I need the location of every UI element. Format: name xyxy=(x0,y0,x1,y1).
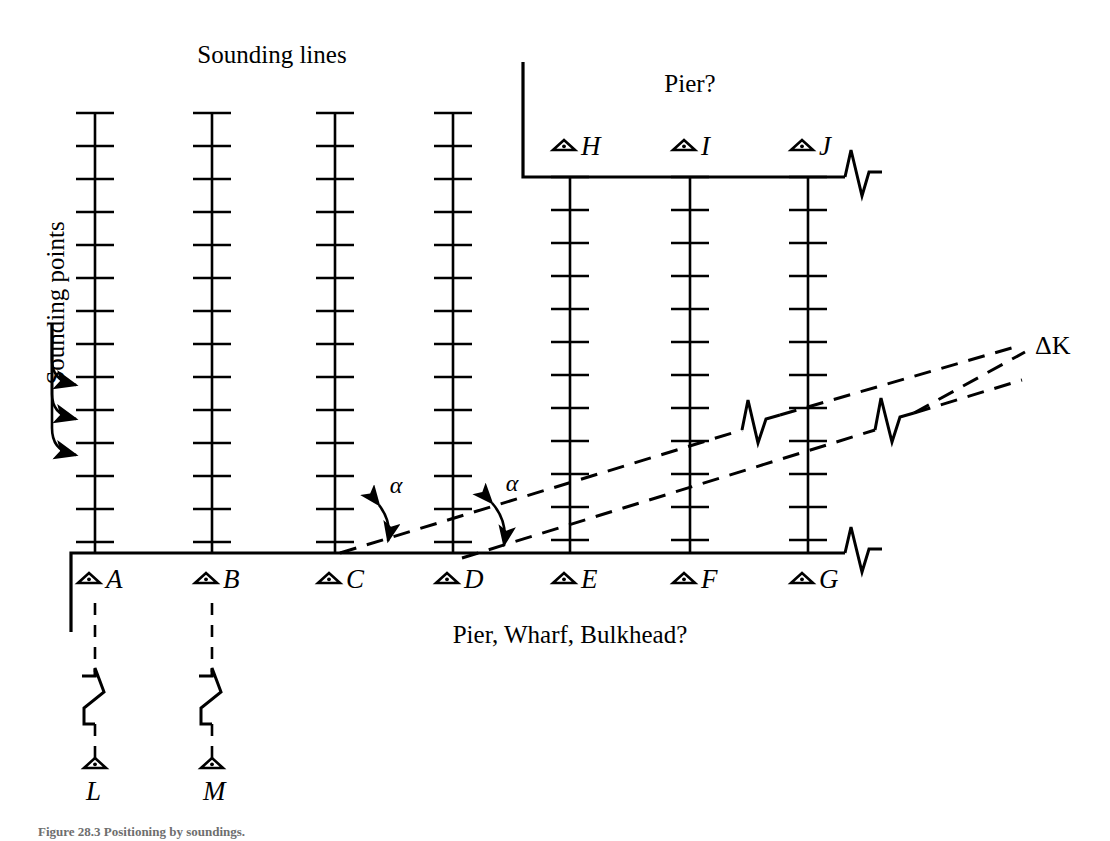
station-triangle-f xyxy=(673,573,695,583)
triangle-dot-icon xyxy=(562,144,566,148)
sounding-lines-title: Sounding lines xyxy=(197,41,346,68)
station-label-i: I xyxy=(700,131,712,161)
station-label-b: B xyxy=(223,564,240,594)
station-triangle-b xyxy=(195,573,217,583)
triangle-dot-icon xyxy=(87,577,91,581)
drop-line-b-break-symbol xyxy=(199,668,221,724)
sight-line-d-break-symbol xyxy=(875,398,914,442)
station-triangle-j xyxy=(791,140,813,150)
angle-alpha-arc-d xyxy=(492,503,505,545)
station-label-l: L xyxy=(85,776,101,806)
station-label-e: E xyxy=(580,564,598,594)
angle-alpha-group-d: α xyxy=(492,470,519,545)
station-label-k: ΔK xyxy=(1035,331,1071,360)
station-label-m: M xyxy=(202,776,227,806)
sounding-lines-group xyxy=(76,113,827,553)
station-label-f: F xyxy=(700,564,718,594)
angle-alpha-group-c: α xyxy=(379,472,403,541)
triangle-dot-icon xyxy=(204,577,208,581)
station-label-a: A xyxy=(104,564,123,594)
station-marker-k: ΔK xyxy=(1035,331,1071,360)
station-label-h: H xyxy=(580,131,602,161)
station-triangle-d xyxy=(436,573,458,583)
sounding-line-c xyxy=(316,113,354,553)
station-marker-g: G xyxy=(791,564,839,594)
station-triangle-l xyxy=(84,758,106,768)
station-marker-i: I xyxy=(673,131,712,161)
sight-line-c-segment-2 xyxy=(780,345,1022,415)
station-marker-m: M xyxy=(201,758,227,806)
angle-alpha-label-c: α xyxy=(390,472,403,498)
triangle-dot-icon xyxy=(800,577,804,581)
station-marker-e: E xyxy=(553,564,598,594)
station-marker-c: C xyxy=(318,564,365,594)
station-triangle-m xyxy=(201,758,223,768)
station-triangle-i xyxy=(673,140,695,150)
bottom-quay-break-symbol xyxy=(845,527,882,572)
sounding-points-label: Sounding points xyxy=(42,221,69,384)
stations-group: ABCDEFGHIJLMΔK xyxy=(78,131,1071,806)
station-marker-a: A xyxy=(78,564,123,594)
triangle-dot-icon xyxy=(562,577,566,581)
angle-alpha-arc-c xyxy=(379,505,389,541)
figure-root: Sounding lines Sounding points Pier? Pie… xyxy=(0,0,1110,841)
station-label-c: C xyxy=(346,564,365,594)
sounding-line-d xyxy=(434,113,472,553)
station-triangle-c xyxy=(318,573,340,583)
triangle-dot-icon xyxy=(210,762,214,766)
angle-alpha-label-d: α xyxy=(506,470,519,496)
station-label-d: D xyxy=(463,564,484,594)
pier-top-label: Pier? xyxy=(664,70,715,97)
station-triangle-e xyxy=(553,573,575,583)
pier-wharf-bulkhead-label: Pier, Wharf, Bulkhead? xyxy=(453,621,688,648)
drop-line-a-break-symbol xyxy=(82,668,104,724)
sounding-line-g xyxy=(789,177,827,553)
figure-caption: Figure 28.3 Positioning by soundings. xyxy=(38,824,245,839)
sounding-line-b xyxy=(193,113,231,553)
triangle-dot-icon xyxy=(682,144,686,148)
triangle-dot-icon xyxy=(93,762,97,766)
station-marker-f: F xyxy=(673,564,718,594)
sounding-line-a xyxy=(76,113,114,553)
station-marker-d: D xyxy=(436,564,484,594)
station-label-g: G xyxy=(819,564,839,594)
sounding-line-f xyxy=(671,177,709,553)
station-label-j: J xyxy=(819,131,833,161)
triangle-dot-icon xyxy=(327,577,331,581)
station-triangle-h xyxy=(553,140,575,150)
station-triangle-a xyxy=(78,573,100,583)
top-pier-break-symbol xyxy=(845,150,882,196)
sight-line-c-break-symbol xyxy=(742,400,780,443)
drop-lines-group xyxy=(82,603,221,760)
station-marker-l: L xyxy=(84,758,106,806)
sounding-line-e xyxy=(551,177,589,553)
station-triangle-g xyxy=(791,573,813,583)
station-marker-h: H xyxy=(553,131,602,161)
station-marker-b: B xyxy=(195,564,240,594)
triangle-dot-icon xyxy=(682,577,686,581)
diagram-canvas: Sounding lines Sounding points Pier? Pie… xyxy=(0,0,1110,841)
triangle-dot-icon xyxy=(445,577,449,581)
triangle-dot-icon xyxy=(800,144,804,148)
station-marker-j: J xyxy=(791,131,833,161)
